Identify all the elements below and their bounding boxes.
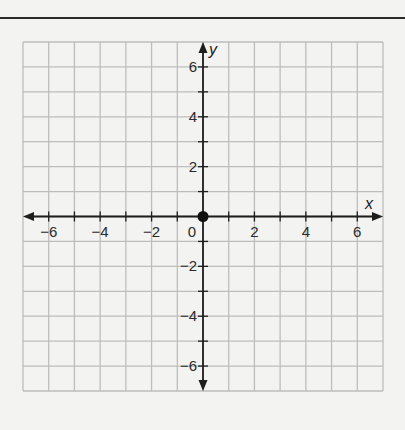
x-tick-label: −2: [143, 223, 160, 240]
x-tick-label: −6: [40, 223, 57, 240]
y-tick-label: 6: [189, 58, 197, 75]
x-tick-label: 2: [250, 223, 258, 240]
y-tick-label: 2: [189, 158, 197, 175]
origin-label: 0: [188, 223, 196, 240]
y-tick-label: 4: [189, 108, 197, 125]
x-axis-right-arrow-icon: [372, 212, 383, 221]
x-axis-label: x: [364, 195, 374, 212]
x-tick-label: 4: [302, 223, 310, 240]
data-point: [198, 211, 209, 222]
tick-labels: −6−4−2246642−2−4−60xy: [40, 41, 374, 374]
data-points: [198, 211, 209, 222]
y-axis-up-arrow-icon: [199, 42, 208, 53]
x-axis-left-arrow-icon: [23, 212, 34, 221]
y-axis-label: y: [208, 41, 218, 58]
x-tick-label: −4: [92, 223, 109, 240]
coordinate-plane: −6−4−2246642−2−4−60xy: [0, 0, 405, 430]
y-tick-label: −6: [180, 357, 197, 374]
x-tick-label: 6: [353, 223, 361, 240]
y-tick-label: −2: [180, 257, 197, 274]
y-axis-down-arrow-icon: [199, 380, 208, 391]
y-tick-label: −4: [180, 307, 197, 324]
